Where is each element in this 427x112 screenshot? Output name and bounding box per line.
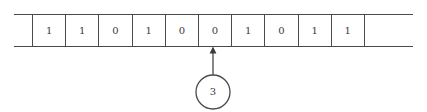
tape-cell-value: 1 xyxy=(245,26,251,36)
head-state-label: 3 xyxy=(210,87,216,97)
tape-cell-4[interactable]: 0 xyxy=(166,15,199,46)
tape-cell-value: 1 xyxy=(311,26,317,36)
tape-cell-6[interactable]: 1 xyxy=(232,15,265,46)
tape-cell-7[interactable]: 0 xyxy=(265,15,298,46)
tape-cell-9[interactable]: 1 xyxy=(332,15,365,46)
tape-cell-value: 1 xyxy=(145,26,151,36)
tape-cell-2[interactable]: 0 xyxy=(99,15,132,46)
up-arrow-icon xyxy=(210,47,217,54)
tape-cell-8[interactable]: 1 xyxy=(299,15,332,46)
tape-diagram: 1 1 0 1 0 0 1 0 1 1 xyxy=(0,0,427,112)
tape-cell-empty-leading[interactable] xyxy=(14,15,33,46)
tape-strip: 1 1 0 1 0 0 1 0 1 1 xyxy=(14,14,413,47)
tape-cell-value: 1 xyxy=(345,26,351,36)
tape-cell-0[interactable]: 1 xyxy=(33,15,66,46)
tape-cell-value: 0 xyxy=(179,26,185,36)
head-state-label-wrap: 3 xyxy=(196,75,230,109)
tape-cell-value: 1 xyxy=(79,26,85,36)
tape-cell-empty-trailing[interactable] xyxy=(365,15,413,46)
tape-cell-value: 0 xyxy=(212,26,218,36)
tape-cell-value: 0 xyxy=(278,26,284,36)
tape-cell-3[interactable]: 1 xyxy=(133,15,166,46)
tape-cell-value: 1 xyxy=(46,26,52,36)
tape-cell-1[interactable]: 1 xyxy=(66,15,99,46)
tape-cell-5-head[interactable]: 0 xyxy=(199,15,232,46)
tape-cell-value: 0 xyxy=(112,26,118,36)
